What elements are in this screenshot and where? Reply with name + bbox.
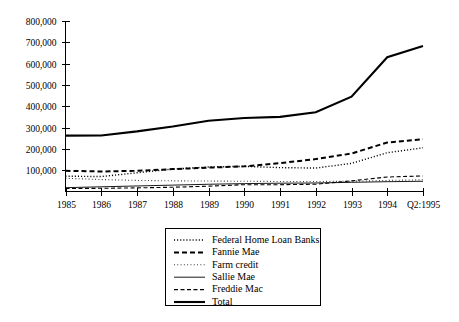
x-tick-label: 1994 (378, 200, 397, 210)
x-axis-group: 1985198619871988198919901991199219931994… (57, 188, 440, 210)
series-line-total (66, 46, 424, 136)
series-line-fannie-mae (66, 139, 424, 171)
data-series-group (66, 46, 424, 189)
legend-label-sallie-mae: Sallie Mae (212, 271, 256, 282)
x-tick-label: 1987 (128, 200, 147, 210)
y-tick-label: 300,000 (26, 124, 57, 134)
y-tick-label: 800,000 (26, 17, 57, 27)
y-tick-label: 600,000 (26, 60, 57, 70)
y-tick-label: 400,000 (26, 102, 57, 112)
y-axis-tick-labels: 100,000200,000300,000400,000500,000600,0… (26, 17, 57, 176)
chart-container: 100,000200,000300,000400,000500,000600,0… (0, 0, 459, 322)
y-axis-group: 100,000200,000300,000400,000500,000600,0… (26, 17, 70, 192)
legend-label-farm-credit: Farm credit (212, 259, 259, 270)
line-chart: 100,000200,000300,000400,000500,000600,0… (0, 0, 459, 322)
x-tick-label: 1989 (200, 200, 219, 210)
legend-label-total: Total (212, 296, 233, 307)
x-axis-tick-labels: 1985198619871988198919901991199219931994… (57, 200, 440, 210)
legend: Federal Home Loan BanksFannie MaeFarm cr… (166, 229, 321, 307)
x-tick-label: 1991 (271, 200, 290, 210)
y-tick-label: 100,000 (26, 166, 57, 176)
x-tick-label: 1992 (307, 200, 326, 210)
legend-label-fannie-mae: Fannie Mae (212, 246, 260, 257)
y-tick-label: 200,000 (26, 145, 57, 155)
legend-label-federal-home-loan-banks: Federal Home Loan Banks (212, 234, 320, 245)
legend-label-freddie-mac: Freddie Mac (212, 283, 263, 294)
series-line-federal-home-loan-banks (66, 148, 424, 177)
x-tick-label: 1985 (57, 200, 76, 210)
series-line-farm-credit (66, 178, 424, 181)
y-tick-label: 500,000 (26, 81, 57, 91)
x-tick-label: 1986 (92, 200, 111, 210)
x-tick-label: 1988 (164, 200, 183, 210)
x-tick-label: Q2:1995 (407, 200, 441, 210)
y-tick-label: 700,000 (26, 38, 57, 48)
x-tick-label: 1990 (235, 200, 254, 210)
x-tick-label: 1993 (343, 200, 362, 210)
